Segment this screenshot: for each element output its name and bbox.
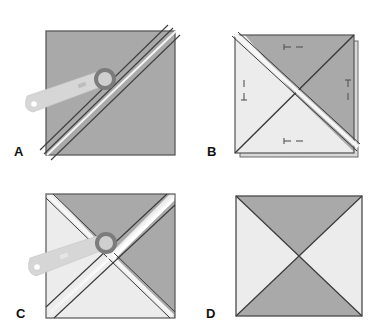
panel-label-c: C: [16, 306, 25, 321]
cutter-blade: [99, 236, 113, 250]
panel-b: [232, 32, 360, 157]
panel-c: [28, 194, 175, 318]
diagram-canvas: [0, 0, 378, 336]
panel-label-d: D: [206, 306, 215, 321]
panel-label-a: A: [14, 144, 23, 159]
handle-hole-icon: [34, 264, 40, 270]
handle-hole-icon: [31, 101, 37, 107]
cutter-blade: [98, 72, 112, 86]
panel-a: [25, 25, 180, 160]
panel-label-b: B: [207, 144, 216, 159]
panel-d: [236, 196, 362, 316]
